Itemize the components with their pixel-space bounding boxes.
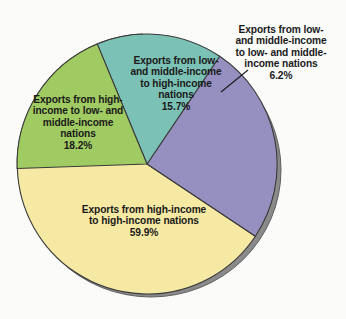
pie-chart: Exports from high-income to high-income …	[0, 0, 346, 319]
pie-chart-graphic	[0, 0, 346, 319]
